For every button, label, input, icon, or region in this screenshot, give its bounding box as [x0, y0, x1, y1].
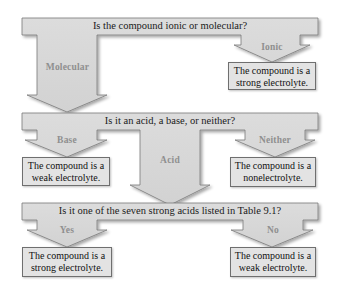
- level2-question: Is it an acid, a base, or neither?: [22, 115, 318, 126]
- branch-label-neither: Neither: [245, 135, 305, 145]
- result-box-ionic-strong-electrolyte: The compound is a strong electrolyte.: [228, 62, 316, 90]
- result-line1: The compound is a: [23, 160, 109, 172]
- branch-label-ionic: Ionic: [242, 42, 302, 52]
- level1-question: Is the compound ionic or molecular?: [22, 20, 318, 31]
- result-line1: The compound is a: [229, 65, 315, 77]
- result-line2: weak electrolyte.: [23, 172, 109, 184]
- branch-label-acid: Acid: [140, 155, 200, 165]
- result-line2: weak electrolyte.: [231, 262, 315, 274]
- result-box-no-weak-electrolyte: The compound is a weak electrolyte.: [230, 247, 316, 277]
- branch-label-yes: Yes: [37, 225, 97, 235]
- result-line2: strong electrolyte.: [229, 77, 315, 89]
- branch-label-no: No: [243, 225, 303, 235]
- result-line2: nonelectrolyte.: [231, 172, 315, 184]
- result-box-yes-strong-electrolyte: The compound is a strong electrolyte.: [22, 247, 112, 277]
- branch-label-base: Base: [37, 135, 97, 145]
- result-line1: The compound is a: [231, 250, 315, 262]
- result-box-neither-nonelectrolyte: The compound is a nonelectrolyte.: [230, 157, 316, 187]
- level3-question: Is it one of the seven strong acids list…: [22, 205, 318, 216]
- result-box-base-weak-electrolyte: The compound is a weak electrolyte.: [22, 157, 110, 186]
- result-line1: The compound is a: [231, 160, 315, 172]
- result-line2: strong electrolyte.: [23, 262, 111, 274]
- result-line1: The compound is a: [23, 250, 111, 262]
- branch-label-molecular: Molecular: [30, 62, 105, 72]
